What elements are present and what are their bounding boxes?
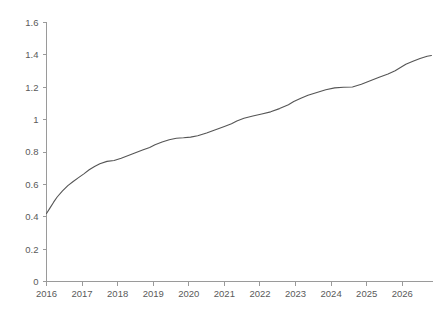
plot-background [0,0,442,311]
y-tick-label: 0.2 [25,244,38,255]
x-tick-label: 2024 [321,288,342,299]
x-tick-label: 2023 [285,288,306,299]
x-tick-label: 2018 [107,288,128,299]
x-tick-label: 2020 [178,288,199,299]
y-tick-label: 0 [33,276,38,287]
x-tick-label: 2022 [249,288,270,299]
y-tick-label: 1 [33,114,38,125]
x-tick-label: 2016 [36,288,57,299]
y-tick-label: 0.8 [25,146,38,157]
y-tick-label: 1.6 [25,17,38,28]
y-tick-label: 0.4 [25,211,38,222]
y-tick-label: 1.2 [25,82,38,93]
x-tick-label: 2026 [392,288,413,299]
x-tick-label: 2017 [72,288,93,299]
line-chart: 00.20.40.60.811.21.41.6 2016201720182019… [0,0,442,311]
y-tick-label: 0.6 [25,179,38,190]
chart-container: 00.20.40.60.811.21.41.6 2016201720182019… [0,0,442,311]
x-tick-label: 2019 [143,288,164,299]
x-tick-label: 2025 [356,288,377,299]
x-tick-label: 2021 [214,288,235,299]
y-tick-label: 1.4 [25,49,38,60]
